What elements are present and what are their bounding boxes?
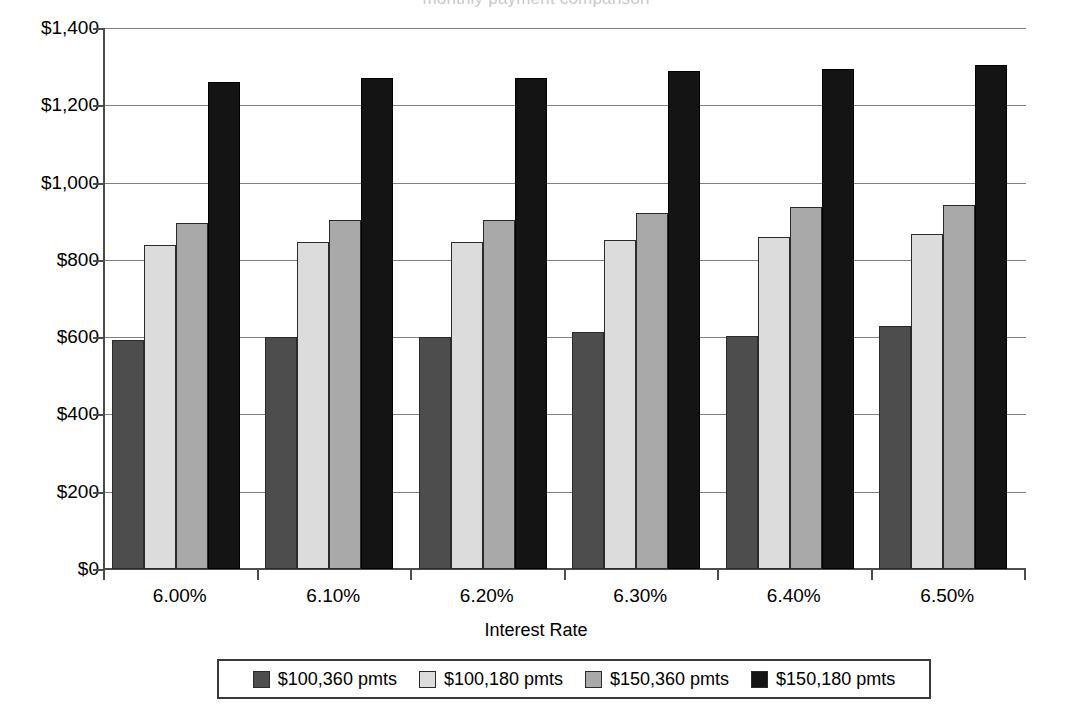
x-axis-tick-mark [103, 569, 105, 580]
bar [483, 220, 515, 569]
bar [361, 78, 393, 569]
y-axis-tick-label: $1,000 [0, 173, 99, 192]
legend-swatch-icon [253, 671, 270, 688]
legend-item[interactable]: $150,180 pmts [751, 669, 895, 689]
x-axis-tick-label: 6.50% [867, 585, 1027, 607]
x-axis-tick-label: 6.00% [100, 585, 260, 607]
legend-label: $100,180 pmts [444, 669, 563, 689]
x-axis-title: Interest Rate [0, 620, 1072, 640]
bar [572, 332, 604, 569]
gridline [105, 183, 1026, 184]
bar [822, 69, 854, 569]
x-axis-tick-label: 6.20% [407, 585, 567, 607]
x-axis-tick-label: 6.30% [560, 585, 720, 607]
bar [176, 223, 208, 569]
bar [297, 242, 329, 569]
y-axis-tick-label: $0 [0, 559, 99, 578]
y-axis-tick-label: $200 [0, 482, 99, 501]
bar [451, 242, 483, 569]
y-axis-tick-label: $600 [0, 327, 99, 346]
legend-label: $150,360 pmts [610, 669, 729, 689]
x-axis-tick-mark [717, 569, 719, 580]
y-axis-tick-label: $400 [0, 404, 99, 423]
legend-item[interactable]: $150,360 pmts [585, 669, 729, 689]
bar [329, 220, 361, 569]
bar [515, 78, 547, 569]
x-axis-tick-mark [871, 569, 873, 580]
bar [879, 326, 911, 569]
plot-area [103, 28, 1026, 569]
gridline [105, 105, 1026, 106]
x-axis-ticks [103, 569, 1024, 581]
y-axis-tick-label: $1,400 [0, 18, 99, 37]
bar [975, 65, 1007, 569]
bar [758, 237, 790, 569]
legend-item[interactable]: $100,180 pmts [419, 669, 563, 689]
chart-legend: $100,360 pmts$100,180 pmts$150,360 pmts$… [217, 659, 931, 699]
gridline [105, 260, 1026, 261]
x-axis-tick-label: 6.40% [714, 585, 874, 607]
y-axis-tick-label: $800 [0, 250, 99, 269]
bar [112, 340, 144, 569]
legend-swatch-icon [585, 671, 602, 688]
bar [668, 71, 700, 569]
bar-chart: monthly payment comparison $0$200$400$60… [0, 0, 1072, 721]
x-axis-tick-mark [1024, 569, 1026, 580]
bar [726, 336, 758, 569]
legend-label: $150,180 pmts [776, 669, 895, 689]
x-axis-tick-label: 6.10% [253, 585, 413, 607]
chart-title-text: monthly payment comparison [0, 0, 1072, 7]
x-axis-labels: 6.00%6.10%6.20%6.30%6.40%6.50% [103, 585, 1024, 609]
bar [636, 213, 668, 569]
x-axis-tick-mark [564, 569, 566, 580]
bar [265, 337, 297, 569]
legend-swatch-icon [419, 671, 436, 688]
legend-item[interactable]: $100,360 pmts [253, 669, 397, 689]
x-axis-tick-mark [257, 569, 259, 580]
chart-title-cutoff: monthly payment comparison [0, 0, 1072, 14]
x-axis-tick-mark [410, 569, 412, 580]
bar [208, 82, 240, 569]
gridline [105, 28, 1026, 29]
bar [943, 205, 975, 569]
y-axis-tick-label: $1,200 [0, 95, 99, 114]
bar [144, 245, 176, 569]
bar [790, 207, 822, 569]
bar [911, 234, 943, 569]
bar [419, 337, 451, 569]
legend-label: $100,360 pmts [278, 669, 397, 689]
bar [604, 240, 636, 569]
legend-swatch-icon [751, 671, 768, 688]
